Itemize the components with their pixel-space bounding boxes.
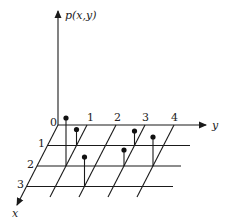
x-axis-label: x [12, 207, 19, 219]
y-axis-label: y [211, 119, 219, 132]
y-tick-4: 4 [171, 111, 178, 124]
y-tick-0: 0 [50, 116, 57, 129]
x-tick-3: 3 [17, 178, 24, 191]
p-axis-label: p(x,y) [65, 9, 97, 22]
x-tick-2: 2 [27, 158, 34, 171]
joint-pmf-stem-diagram: p(x,y) y x 0 1 2 3 4 1 2 3 [0, 0, 226, 219]
y-tick-1: 1 [87, 111, 94, 124]
stem-2-1 [63, 115, 68, 166]
y-tick-2: 2 [114, 111, 121, 124]
x-tick-1: 1 [38, 137, 45, 150]
y-tick-3: 3 [142, 111, 149, 124]
